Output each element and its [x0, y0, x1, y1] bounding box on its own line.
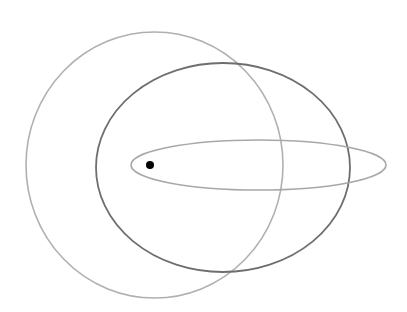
- moderate-eccentric-orbit-ellipse: [96, 63, 350, 272]
- circular-orbit-ellipse: [26, 32, 283, 298]
- central-body-dot: [146, 161, 154, 169]
- orbit-diagram: [0, 0, 407, 312]
- orbit-diagram-svg: [0, 0, 407, 312]
- high-eccentric-orbit-ellipse: [131, 140, 386, 190]
